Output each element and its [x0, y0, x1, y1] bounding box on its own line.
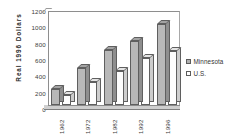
plot-area: [48, 11, 180, 105]
x-axis-tick-label: 1992: [137, 119, 144, 134]
legend-item-minnesota[interactable]: Minnesota: [186, 56, 242, 66]
bar-group: [48, 11, 74, 105]
legend-swatch-minnesota-icon: [186, 59, 191, 64]
chart-legend: Minnesota U.S.: [186, 56, 242, 80]
bar-side: [124, 68, 128, 102]
bar-group: [101, 11, 127, 105]
legend-item-us[interactable]: U.S.: [186, 68, 242, 78]
bar-side: [97, 79, 101, 102]
bar-minnesota-1972[interactable]: [77, 68, 86, 105]
y-axis-tick-label: 0: [18, 107, 46, 113]
x-axis-tick-label: 1962: [58, 119, 65, 134]
y-axis-tick-label: 400: [18, 74, 46, 80]
bar-group: [74, 11, 100, 105]
legend-label-us: U.S.: [194, 70, 207, 77]
y-axis-tick-label: 200: [18, 91, 46, 97]
bar-side: [86, 65, 90, 102]
y-axis-tick-label: 1000: [18, 25, 46, 31]
bar-side: [113, 47, 117, 102]
bar-minnesota-1996[interactable]: [157, 24, 166, 105]
bar-side: [150, 55, 154, 102]
bar-face: [77, 68, 86, 105]
bar-group: [127, 11, 153, 105]
y-axis-tick-labels: 020040060080010001200: [18, 8, 46, 112]
bar-side: [177, 48, 181, 102]
bar-face: [51, 89, 60, 105]
bar-side: [60, 86, 64, 102]
x-axis-tick-labels: 19621972198219921996: [48, 110, 180, 138]
bar-side: [166, 21, 170, 102]
bar-face: [157, 24, 166, 105]
legend-swatch-us-icon: [186, 71, 191, 76]
y-axis-tick-label: 600: [18, 58, 46, 64]
y-axis-tick-label: 800: [18, 42, 46, 48]
bar-group: [154, 11, 180, 105]
chart-container: Real 1996 Dollars 020040060080010001200 …: [0, 0, 244, 138]
x-axis-tick-label: 1972: [84, 119, 91, 134]
bar-side: [139, 38, 143, 102]
x-axis-tick-label: 1996: [164, 119, 171, 134]
bar-face: [130, 41, 139, 105]
bar-minnesota-1992[interactable]: [130, 41, 139, 105]
x-axis-tick-label: 1982: [111, 119, 118, 134]
bar-face: [104, 50, 113, 105]
bar-minnesota-1982[interactable]: [104, 50, 113, 105]
legend-label-minnesota: Minnesota: [194, 58, 224, 65]
x-axis-line: [48, 105, 180, 106]
bar-minnesota-1962[interactable]: [51, 89, 60, 105]
